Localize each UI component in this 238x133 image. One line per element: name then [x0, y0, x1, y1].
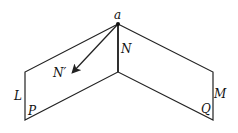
label-p: P — [27, 104, 37, 118]
label-q: Q — [201, 102, 211, 116]
label-m: M — [213, 87, 227, 101]
label-a: a — [114, 8, 121, 22]
arrow-n-prime — [73, 24, 118, 72]
plane-mirror-diagram: a N N′ L P M Q — [0, 0, 238, 133]
right-plane — [118, 24, 213, 120]
label-n: N — [120, 42, 132, 56]
label-n-prime: N′ — [52, 66, 67, 80]
label-l: L — [13, 89, 22, 103]
apex-point — [116, 22, 120, 26]
